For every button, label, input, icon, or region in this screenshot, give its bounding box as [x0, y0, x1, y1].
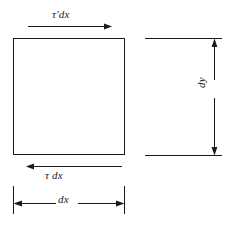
differential-element-square [14, 39, 125, 155]
diagram-canvas [0, 0, 234, 225]
dy-dimension-label: dy [196, 77, 207, 88]
dx-arrowhead-left-icon [14, 201, 23, 207]
shear-stress-diagram: τ′dx τ dx dx dy [0, 0, 234, 225]
dy-arrowhead-bottom-icon [212, 147, 218, 156]
bottom-shear-label: τ dx [45, 170, 63, 181]
dy-arrowhead-top-icon [212, 39, 218, 48]
dx-arrowhead-right-icon [116, 201, 125, 207]
bottom-shear-arrowhead-icon [26, 164, 34, 170]
top-shear-arrowhead-icon [104, 24, 112, 30]
dx-dimension-label: dx [58, 194, 69, 205]
top-shear-label: τ′dx [52, 9, 70, 20]
